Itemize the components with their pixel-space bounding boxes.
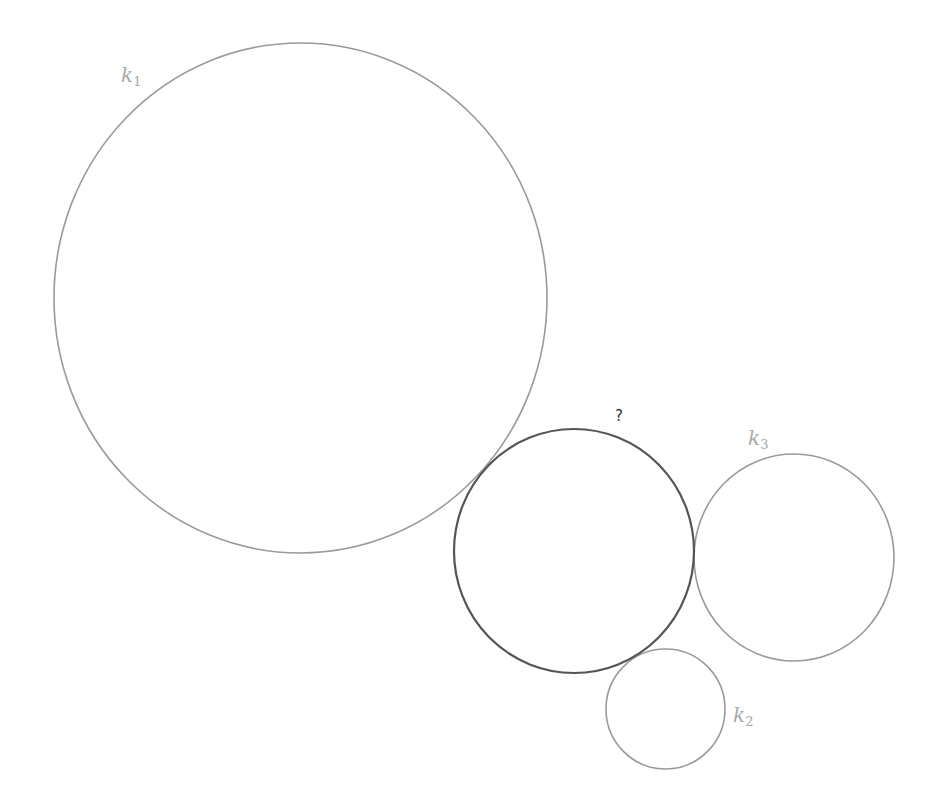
circle-k3: [694, 454, 894, 661]
label-k1-sub: 1: [133, 74, 141, 89]
label-k1: k1: [121, 65, 141, 88]
label-k2-sub: 2: [745, 714, 753, 729]
label-k3: k3: [748, 428, 768, 451]
circle-unknown: [454, 429, 694, 673]
label-k1-base: k: [121, 63, 133, 87]
label-k3-sub: 3: [760, 437, 768, 452]
circles-diagram: [0, 0, 936, 801]
circle-k2: [606, 649, 725, 769]
label-k3-base: k: [748, 426, 760, 450]
label-k2-base: k: [733, 703, 745, 727]
circle-k1: [54, 43, 547, 553]
label-k2: k2: [733, 705, 753, 728]
label-unknown: ?: [615, 409, 623, 424]
